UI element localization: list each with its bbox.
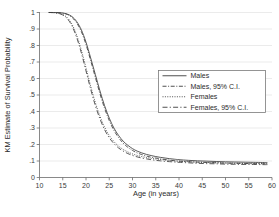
x-tick-label: 25 [105, 182, 113, 189]
y-tick-label: .9 [29, 25, 35, 32]
x-tick-label: 55 [245, 182, 253, 189]
y-axis-title: KM Estimate of Survival Probability [3, 37, 12, 152]
y-tick-label: .6 [29, 75, 35, 82]
x-tick-label: 60 [268, 182, 276, 189]
y-tick-label: 0 [31, 174, 35, 181]
legend-label[interactable]: Males, 95% C.I. [191, 83, 240, 90]
legend-label[interactable]: Females, 95% C.I. [191, 104, 249, 111]
y-tick-label: .2 [29, 141, 35, 148]
x-tick-label: 30 [129, 182, 137, 189]
y-tick-label: .4 [29, 108, 35, 115]
y-tick-label: .8 [29, 42, 35, 49]
y-tick-label: .7 [29, 58, 35, 65]
x-axis-title: Age (in years) [133, 189, 179, 198]
x-tick-label: 15 [59, 182, 67, 189]
y-tick-label: 1 [31, 9, 35, 16]
legend-label[interactable]: Females [191, 93, 218, 100]
x-tick-label: 45 [198, 182, 206, 189]
chart-canvas: 0.1.2.3.4.5.6.7.8.91 1015202530354045505… [0, 0, 279, 217]
y-tick-label: .3 [29, 124, 35, 131]
x-tick-label: 10 [36, 182, 44, 189]
km-survival-chart: 0.1.2.3.4.5.6.7.8.91 1015202530354045505… [0, 0, 279, 217]
chart-legend[interactable]: MalesMales, 95% C.I.FemalesFemales, 95% … [159, 71, 266, 113]
x-tick-label: 50 [222, 182, 230, 189]
y-tick-label: .5 [29, 91, 35, 98]
y-tick-label: .1 [29, 157, 35, 164]
x-tick-label: 20 [82, 182, 90, 189]
legend-label[interactable]: Males [191, 72, 210, 79]
x-tick-label: 35 [152, 182, 160, 189]
x-tick-label: 40 [175, 182, 183, 189]
